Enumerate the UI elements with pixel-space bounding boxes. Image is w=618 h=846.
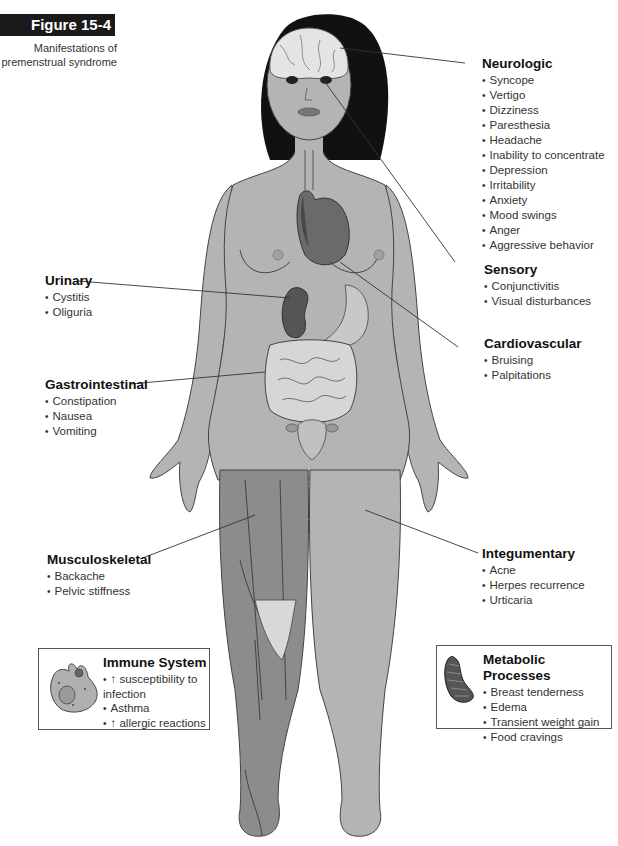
list-item: Palpitations	[484, 368, 582, 383]
right-ovary	[326, 424, 338, 432]
musculoskeletal-list: Backache Pelvic stiffness	[47, 569, 151, 599]
list-item: Oliguria	[45, 305, 92, 320]
list-item: Transient weight gain	[483, 715, 611, 730]
left-leg-muscles	[220, 470, 309, 836]
gastrointestinal-list: Constipation Nausea Vomiting	[45, 394, 148, 439]
list-item: Depression	[482, 163, 605, 178]
right-nipple	[374, 250, 384, 260]
group-metabolic-processes: Metabolic Processes Breast tenderness Ed…	[483, 652, 611, 745]
sensory-list: Conjunctivitis Visual disturbances	[484, 279, 591, 309]
list-item: Food cravings	[483, 730, 611, 745]
left-eye	[286, 76, 298, 84]
neurologic-title: Neurologic	[482, 56, 605, 72]
metabolic-processes-box: Metabolic Processes Breast tenderness Ed…	[436, 645, 612, 729]
mouth	[298, 108, 320, 116]
list-item: Acne	[482, 563, 585, 578]
list-item: Inability to concentrate	[482, 148, 605, 163]
list-item: Breast tenderness	[483, 685, 611, 700]
immune-system-title: Immune System	[103, 655, 207, 671]
list-item: Urticaria	[482, 593, 585, 608]
list-item: Herpes recurrence	[482, 578, 585, 593]
list-item: ↑ susceptibility to infection	[103, 672, 207, 701]
list-item: Conjunctivitis	[484, 279, 591, 294]
immune-cell-icon	[43, 657, 103, 717]
group-musculoskeletal: Musculoskeletal Backache Pelvic stiffnes…	[47, 552, 151, 599]
neurologic-list: Syncope Vertigo Dizziness Paresthesia He…	[482, 73, 605, 253]
list-item: Anger	[482, 223, 605, 238]
list-item: Anxiety	[482, 193, 605, 208]
kidney	[282, 288, 308, 338]
urinary-title: Urinary	[45, 273, 92, 289]
list-item: Nausea	[45, 409, 148, 424]
group-immune-system: Immune System ↑ susceptibility to infect…	[103, 655, 207, 731]
group-gastrointestinal: Gastrointestinal Constipation Nausea Vom…	[45, 377, 148, 439]
list-item: Backache	[47, 569, 151, 584]
cardiovascular-title: Cardiovascular	[484, 336, 582, 352]
metabolic-processes-title: Metabolic Processes	[483, 652, 611, 684]
list-item: Vertigo	[482, 88, 605, 103]
list-item: Aggressive behavior	[482, 238, 605, 253]
list-item: Pelvic stiffness	[47, 584, 151, 599]
list-item: Visual disturbances	[484, 294, 591, 309]
list-item: Irritability	[482, 178, 605, 193]
integumentary-list: Acne Herpes recurrence Urticaria	[482, 563, 585, 608]
list-item: Edema	[483, 700, 611, 715]
gastrointestinal-title: Gastrointestinal	[45, 377, 148, 393]
group-neurologic: Neurologic Syncope Vertigo Dizziness Par…	[482, 56, 605, 253]
immune-system-box: Immune System ↑ susceptibility to infect…	[38, 648, 210, 730]
list-item: Cystitis	[45, 290, 92, 305]
left-nipple	[273, 250, 283, 260]
sensory-title: Sensory	[484, 262, 591, 278]
right-leg	[309, 470, 400, 836]
group-cardiovascular: Cardiovascular Bruising Palpitations	[484, 336, 582, 383]
list-item: ↑ allergic reactions	[103, 716, 207, 731]
metabolic-processes-list: Breast tenderness Edema Transient weight…	[483, 685, 611, 745]
list-item: Mood swings	[482, 208, 605, 223]
list-item: Paresthesia	[482, 118, 605, 133]
group-sensory: Sensory Conjunctivitis Visual disturbanc…	[484, 262, 591, 309]
cardiovascular-list: Bruising Palpitations	[484, 353, 582, 383]
musculoskeletal-title: Musculoskeletal	[47, 552, 151, 568]
list-item: Asthma	[103, 701, 207, 716]
list-item: Vomiting	[45, 424, 148, 439]
list-item: Syncope	[482, 73, 605, 88]
integumentary-title: Integumentary	[482, 546, 585, 562]
mitochondrion-icon	[441, 654, 477, 706]
group-integumentary: Integumentary Acne Herpes recurrence Urt…	[482, 546, 585, 608]
list-item: Dizziness	[482, 103, 605, 118]
list-item: Constipation	[45, 394, 148, 409]
left-ovary	[286, 424, 298, 432]
group-urinary: Urinary Cystitis Oliguria	[45, 273, 92, 320]
list-item: Headache	[482, 133, 605, 148]
urinary-list: Cystitis Oliguria	[45, 290, 92, 320]
immune-system-list: ↑ susceptibility to infection Asthma ↑ a…	[103, 672, 207, 731]
list-item: Bruising	[484, 353, 582, 368]
